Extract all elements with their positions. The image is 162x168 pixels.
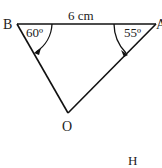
angle-label-A: 55º [124,25,141,40]
triangle-diagram: B A O 6 cm 60º 55º H [0,0,162,168]
vertex-label-A: A [156,17,162,32]
side-AO [68,24,156,113]
angle-label-B: 60º [26,25,43,40]
vertex-label-B: B [3,17,12,32]
extra-label-H: H [128,153,137,168]
vertex-label-O: O [62,119,72,134]
side-length-label: 6 cm [68,8,94,23]
